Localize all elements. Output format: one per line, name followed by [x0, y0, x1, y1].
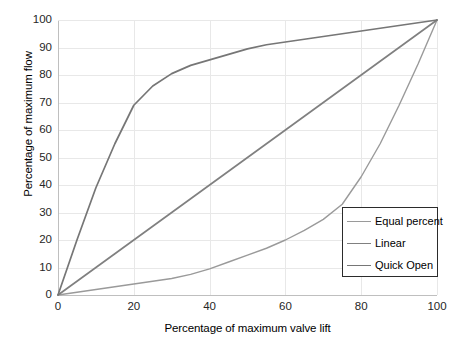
- legend-swatch-icon: [347, 265, 371, 266]
- chart-figure: Percentage of maximum flow Percentage of…: [0, 0, 462, 342]
- legend-item-equal-percent[interactable]: Equal percent: [347, 213, 443, 229]
- legend-swatch-icon: [347, 243, 371, 244]
- legend-label: Equal percent: [375, 216, 443, 227]
- legend: Equal percent Linear Quick Open: [342, 207, 438, 277]
- legend-item-linear[interactable]: Linear: [347, 235, 406, 251]
- legend-item-quick-open[interactable]: Quick Open: [347, 257, 433, 273]
- legend-swatch-icon: [347, 221, 371, 222]
- plot-area: [0, 0, 462, 342]
- legend-label: Quick Open: [375, 260, 433, 271]
- legend-label: Linear: [375, 238, 406, 249]
